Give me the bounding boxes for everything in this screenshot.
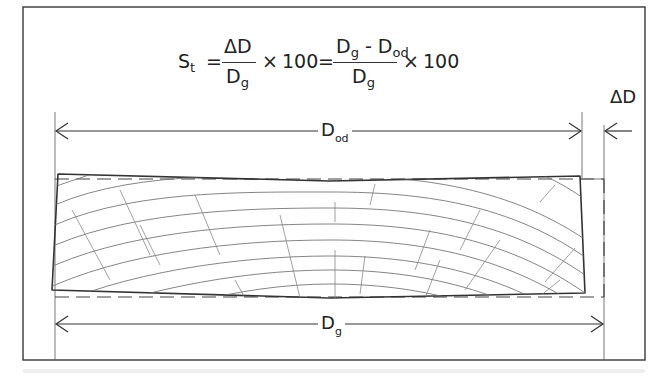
frac2-num-a-sub: g <box>351 45 359 60</box>
dg-label-main: D <box>321 312 335 333</box>
growth-rings <box>40 162 610 372</box>
frac1-den-sub: g <box>241 75 249 90</box>
wood-rays <box>72 184 575 298</box>
formula-equals-1: = <box>206 52 222 71</box>
frac2-numerator: Dg - Dod <box>336 37 409 56</box>
dg-label: Dg <box>318 314 345 332</box>
frac1-den-main: D <box>226 65 241 87</box>
formula-equals-2: = <box>318 52 334 71</box>
formula-hundred-1: 100 <box>282 52 318 71</box>
frac2-num-a: D <box>336 35 351 57</box>
frac1-bar <box>222 62 256 63</box>
formula-s: S <box>178 50 190 72</box>
formula-times-2: × <box>403 52 419 71</box>
delta-d-arrow <box>605 123 632 139</box>
caption-strip <box>23 369 645 373</box>
formula-lhs: St <box>178 52 195 71</box>
formula-hundred-2: 100 <box>423 52 459 71</box>
frac2-minus: - <box>359 35 378 57</box>
formula-s-sub: t <box>190 60 195 75</box>
frac1-numerator: ΔD <box>224 37 252 56</box>
frac1-denominator: Dg <box>226 67 249 86</box>
dod-label-main: D <box>321 119 335 140</box>
frac2-bar <box>333 62 397 63</box>
green-dimension-outline <box>55 179 604 297</box>
delta-d-label: ΔD <box>610 88 636 106</box>
dod-label: Dod <box>318 121 352 139</box>
dg-label-sub: g <box>335 325 342 338</box>
dod-label-sub: od <box>335 132 349 145</box>
formula-times-1: × <box>262 52 278 71</box>
frac2-denominator: Dg <box>352 67 375 86</box>
shrinkage-formula: St = ΔD Dg × 100 = Dg - Dod Dg × 100 <box>0 0 662 100</box>
frac2-num-b: D <box>378 35 393 57</box>
frac2-den-sub: g <box>367 75 375 90</box>
frac2-den-main: D <box>352 65 367 87</box>
